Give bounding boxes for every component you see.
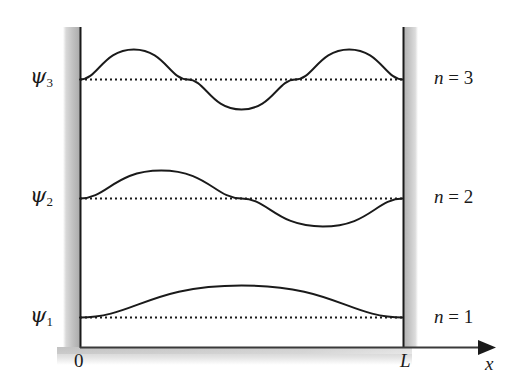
n1-variable: n [434, 306, 444, 327]
wavefunction-curve-psi2 [80, 171, 403, 227]
psi2-symbol: ψ [30, 183, 46, 207]
psi1-symbol: ψ [30, 303, 46, 327]
wavefunction-curve-psi1 [80, 286, 403, 318]
n2-value: = 2 [444, 186, 474, 207]
n2-variable: n [434, 186, 444, 207]
psi3-symbol: ψ [30, 64, 46, 88]
psi2-label: ψ2 [30, 185, 53, 208]
psi2-subscript: 2 [46, 194, 53, 209]
n3-value: = 3 [444, 67, 474, 88]
psi1-label: ψ1 [30, 305, 53, 328]
quantum-number-label-n1: n = 1 [434, 307, 473, 326]
quantum-number-label-n2: n = 2 [434, 187, 473, 206]
x-axis-tick-origin: 0 [74, 351, 84, 370]
x-axis-tick-length: L [400, 351, 411, 370]
right-wall-shading [403, 27, 418, 347]
quantum-number-label-n3: n = 3 [434, 68, 473, 87]
left-wall-shading [63, 27, 80, 347]
psi1-subscript: 1 [46, 314, 53, 329]
n1-value: = 1 [444, 306, 474, 327]
psi3-subscript: 3 [46, 75, 53, 90]
psi3-label: ψ3 [30, 66, 53, 89]
n3-variable: n [434, 67, 444, 88]
x-axis-title: x [485, 354, 493, 373]
